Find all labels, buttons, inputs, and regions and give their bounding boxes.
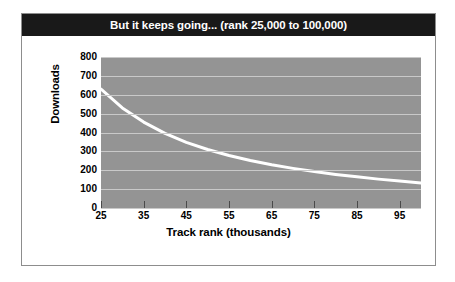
gridline	[101, 76, 421, 77]
chart-title-bar: But it keeps going... (rank 25,000 to 10…	[22, 14, 435, 36]
gridline	[101, 95, 421, 96]
x-axis-tick-label: 95	[394, 210, 405, 221]
y-axis-tick-labels: 0100200300400500600700800	[64, 57, 97, 207]
x-axis-tick-mark	[229, 201, 230, 208]
x-axis-tick-mark	[272, 201, 273, 208]
gridline	[101, 208, 421, 209]
gridline	[101, 151, 421, 152]
y-axis-tick-label: 100	[80, 184, 97, 194]
x-axis-tick-mark	[357, 201, 358, 208]
x-axis-tick-mark	[186, 201, 187, 208]
y-axis-tick-label: 800	[80, 52, 97, 62]
x-axis-tick-mark	[144, 201, 145, 208]
x-axis-tick-mark	[400, 201, 401, 208]
gridline	[101, 114, 421, 115]
x-axis-tick-mark	[314, 201, 315, 208]
x-axis-tick-label: 25	[95, 210, 106, 221]
x-axis-tick-label: 65	[266, 210, 277, 221]
y-axis-label: Downloads	[49, 34, 61, 154]
gridline	[101, 133, 421, 134]
x-axis-tick-mark	[101, 201, 102, 208]
chart-title: But it keeps going... (rank 25,000 to 10…	[110, 19, 347, 31]
y-axis-tick-label: 200	[80, 165, 97, 175]
gridline	[101, 189, 421, 190]
y-axis-tick-label: 700	[80, 71, 97, 81]
y-axis-tick-label: 300	[80, 146, 97, 156]
x-axis-tick-label: 85	[351, 210, 362, 221]
x-axis-tick-label: 75	[309, 210, 320, 221]
x-axis-tick-labels: 2535455565758595	[101, 210, 421, 224]
y-axis-tick-label: 600	[80, 90, 97, 100]
x-axis-tick-label: 35	[138, 210, 149, 221]
x-axis-label: Track rank (thousands)	[22, 226, 435, 238]
x-axis-tick-label: 45	[181, 210, 192, 221]
plot-area	[101, 57, 421, 208]
chart-figure: But it keeps going... (rank 25,000 to 10…	[21, 13, 436, 266]
y-axis-tick-label: 400	[80, 128, 97, 138]
x-axis-tick-label: 55	[223, 210, 234, 221]
y-axis-tick-label: 500	[80, 109, 97, 119]
gridline	[101, 57, 421, 58]
gridline	[101, 170, 421, 171]
